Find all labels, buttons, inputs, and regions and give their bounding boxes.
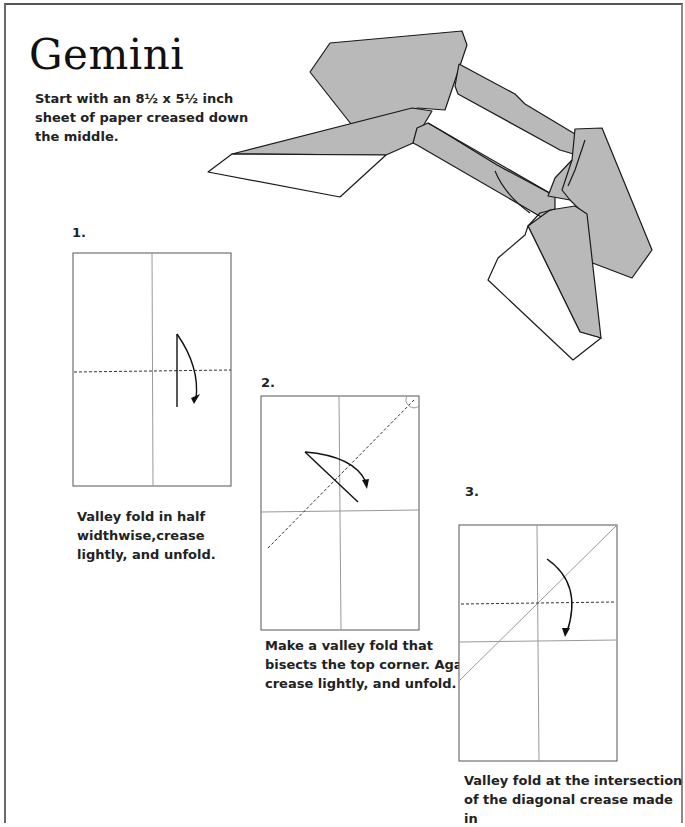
step-2-caption: Make a valley fold that bisects the top … [265, 636, 485, 693]
step-1-caption: Valley fold in half widthwise,crease lig… [77, 507, 247, 564]
step-2-number: 2. [261, 375, 275, 390]
step-3-diagram [458, 524, 628, 769]
step-1-diagram [72, 252, 242, 492]
step-2-diagram [259, 394, 429, 634]
step-3-caption: Valley fold at the intersection of the d… [464, 771, 684, 827]
step-3-number: 3. [465, 484, 479, 499]
step-1-number: 1. [72, 225, 86, 240]
